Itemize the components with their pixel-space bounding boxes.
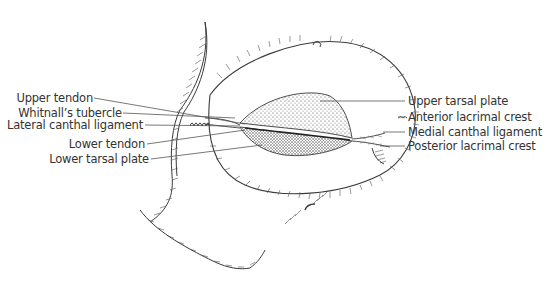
label-posterior-lacrimal-crest: Posterior lacrimal crest [408, 140, 536, 153]
label-upper-tendon: Upper tendon [16, 92, 93, 105]
label-medial-canthal-ligament: Medial canthal ligament [408, 126, 542, 139]
cheek-contour [140, 210, 265, 269]
label-upper-tarsal-plate: Upper tarsal plate [408, 95, 508, 108]
label-anterior-lacrimal-crest: Anterior lacrimal crest [408, 111, 531, 124]
eyelid-anatomy-diagram: Upper tendon Whitnall’s tubercle Lateral… [0, 0, 550, 282]
label-lateral-canthal-ligament: Lateral canthal ligament [7, 119, 143, 132]
lateral-orbital-rim [150, 22, 207, 222]
label-lower-tarsal-plate: Lower tarsal plate [49, 153, 149, 166]
label-lower-tendon: Lower tendon [69, 138, 145, 151]
